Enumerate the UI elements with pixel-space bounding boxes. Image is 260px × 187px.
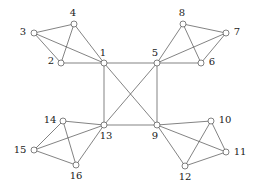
vertex-label-13: 13 (100, 131, 113, 141)
vertex-label-1: 1 (100, 48, 106, 58)
vertex-label-9: 9 (152, 131, 158, 141)
graph-vertex-10 (208, 118, 214, 124)
vertex-label-10: 10 (219, 115, 232, 125)
graph-vertex-6 (198, 60, 204, 66)
graph-edge-6-8 (183, 24, 201, 63)
graph-vertex-3 (31, 30, 37, 36)
graph-vertex-12 (182, 163, 188, 169)
vertex-label-6: 6 (209, 57, 215, 67)
graph-edge-9-11 (157, 125, 226, 152)
graph-edge-14-16 (63, 121, 76, 165)
vertex-label-2: 2 (48, 56, 54, 66)
graph-edge-10-12 (185, 121, 211, 166)
graph-edge-15-16 (34, 150, 76, 165)
vertex-label-8: 8 (179, 8, 185, 18)
graph-canvas (0, 0, 260, 187)
graph-figure: 12345678910111213141516 (0, 0, 260, 187)
graph-vertex-9 (154, 122, 160, 128)
graph-vertex-5 (154, 60, 160, 66)
graph-edge-13-14 (63, 121, 104, 125)
graph-vertex-14 (60, 118, 66, 124)
graph-edge-11-12 (185, 152, 226, 166)
graph-edge-3-4 (34, 24, 74, 33)
graph-edge-14-15 (34, 121, 63, 150)
vertex-label-15: 15 (14, 145, 27, 155)
vertex-label-16: 16 (70, 171, 83, 181)
graph-vertex-11 (223, 149, 229, 155)
vertex-label-4: 4 (70, 8, 76, 18)
graph-edge-1-3 (34, 33, 104, 63)
graph-vertex-13 (101, 122, 107, 128)
graph-vertex-15 (31, 147, 37, 153)
vertex-label-7: 7 (234, 27, 240, 37)
graph-edge-9-10 (157, 121, 211, 125)
vertex-label-3: 3 (20, 27, 26, 37)
edge-layer (34, 24, 226, 166)
vertex-label-11: 11 (234, 147, 247, 157)
graph-vertex-1 (101, 60, 107, 66)
vertex-label-5: 5 (152, 48, 158, 58)
graph-vertex-7 (223, 30, 229, 36)
graph-edge-7-8 (183, 24, 226, 33)
graph-edge-2-4 (61, 24, 74, 63)
graph-edge-13-15 (34, 125, 104, 150)
graph-vertex-16 (73, 162, 79, 168)
graph-edge-9-12 (157, 125, 185, 166)
vertex-label-14: 14 (44, 115, 57, 125)
vertex-label-12: 12 (179, 172, 192, 182)
graph-vertex-2 (58, 60, 64, 66)
graph-vertex-4 (71, 21, 77, 27)
graph-vertex-8 (180, 21, 186, 27)
